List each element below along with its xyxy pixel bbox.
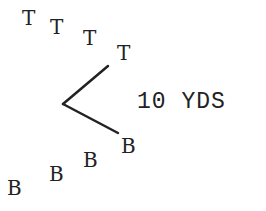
bottom-player-2: B	[49, 164, 64, 184]
angle-line-upper	[63, 66, 108, 104]
distance-label: 10 YDS	[137, 91, 226, 114]
angle-marker	[0, 0, 266, 211]
top-player-2: T	[50, 17, 63, 37]
top-player-3: T	[83, 28, 96, 48]
bottom-player-3: B	[83, 150, 98, 170]
top-player-1: T	[22, 8, 35, 28]
angle-line-lower	[63, 104, 118, 133]
bottom-player-4: B	[121, 136, 136, 156]
top-player-4: T	[117, 43, 130, 63]
bottom-player-1: B	[7, 178, 22, 198]
formation-diagram: T T T T 10 YDS B B B B	[0, 0, 266, 211]
